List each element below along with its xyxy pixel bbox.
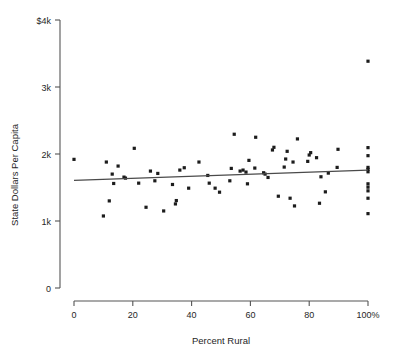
data-point (366, 154, 369, 157)
data-point (149, 169, 152, 172)
data-point (218, 191, 221, 194)
data-point (309, 151, 312, 154)
data-point (105, 160, 108, 163)
y-tick-label: 1k (41, 217, 51, 227)
data-point (296, 137, 299, 140)
data-point (284, 157, 287, 160)
trendline (74, 170, 368, 180)
data-point (336, 148, 339, 151)
data-point (72, 158, 75, 161)
data-point (366, 189, 369, 192)
data-point (112, 182, 115, 185)
data-point (315, 156, 318, 159)
data-point (241, 168, 244, 171)
data-point (266, 176, 269, 179)
x-tick-label: 80 (304, 310, 314, 320)
data-point (178, 168, 181, 171)
data-points-layer (72, 60, 369, 218)
x-tick-label: 40 (187, 310, 197, 320)
data-point (153, 179, 156, 182)
data-point (247, 159, 250, 162)
y-tick-label: $4k (36, 16, 51, 26)
data-point (366, 182, 369, 185)
data-point (171, 183, 174, 186)
trendline-layer (74, 170, 368, 180)
data-point (144, 206, 147, 209)
data-point (253, 166, 256, 169)
data-point (174, 202, 177, 205)
data-point (254, 136, 257, 139)
data-point (117, 164, 120, 167)
y-tick-label: 0 (46, 284, 51, 294)
data-point (291, 160, 294, 163)
x-tick-label: 20 (128, 310, 138, 320)
data-point (239, 169, 242, 172)
data-point (366, 60, 369, 63)
data-point (162, 209, 165, 212)
data-point (366, 146, 369, 149)
data-point (197, 160, 200, 163)
data-point (175, 199, 178, 202)
data-point (293, 204, 296, 207)
data-point (108, 199, 111, 202)
data-point (318, 202, 321, 205)
data-point (272, 146, 275, 149)
data-point (288, 197, 291, 200)
data-point (183, 166, 186, 169)
data-point (233, 133, 236, 136)
data-point (137, 182, 140, 185)
data-point (286, 150, 289, 153)
data-point (366, 212, 369, 215)
x-axis-title: Percent Rural (192, 335, 250, 346)
data-point (208, 182, 211, 185)
data-point (246, 182, 249, 185)
y-axis: 01k2k3k$4k (36, 16, 60, 294)
x-tick-label: 100% (356, 310, 379, 320)
data-point (102, 214, 105, 217)
scatter-chart: 01k2k3k$4k 020406080100% State Dollars P… (0, 0, 398, 355)
data-point (133, 147, 136, 150)
data-point (336, 166, 339, 169)
data-point (319, 175, 322, 178)
data-point (187, 187, 190, 190)
plot-canvas: 01k2k3k$4k 020406080100% State Dollars P… (0, 0, 398, 355)
data-point (228, 179, 231, 182)
data-point (366, 197, 369, 200)
data-point (156, 172, 159, 175)
data-point (306, 160, 309, 163)
y-axis-title: State Dollars Per Capita (9, 123, 20, 226)
data-point (111, 173, 114, 176)
data-point (366, 186, 369, 189)
x-tick-label: 60 (245, 310, 255, 320)
data-point (244, 170, 247, 173)
data-point (324, 190, 327, 193)
data-point (277, 195, 280, 198)
y-tick-label: 2k (41, 150, 51, 160)
x-axis: 020406080100% (71, 301, 379, 320)
data-point (214, 187, 217, 190)
data-point (230, 167, 233, 170)
x-tick-label: 0 (71, 310, 76, 320)
y-tick-label: 3k (41, 83, 51, 93)
data-point (283, 165, 286, 168)
